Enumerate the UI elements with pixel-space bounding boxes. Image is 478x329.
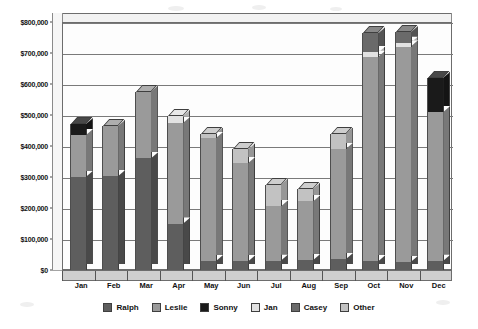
- legend-swatch-icon: [200, 303, 209, 312]
- bar-segment-ralph[interactable]: [395, 262, 412, 270]
- bar-segment-side-face: [443, 72, 450, 106]
- bar-segment-jan[interactable]: [395, 43, 412, 47]
- bar-segment-side-face: [378, 255, 385, 264]
- bar-segment-side-face: [216, 255, 223, 264]
- stacked-bar[interactable]: [395, 22, 412, 270]
- bar-segment-ralph[interactable]: [135, 158, 152, 270]
- bar-segment-side-face: [86, 171, 93, 264]
- bar-segment-side-face: [378, 51, 385, 256]
- bar-segment-leslie[interactable]: [395, 47, 412, 262]
- bar-segment-leslie[interactable]: [265, 206, 282, 260]
- bar-segment-leslie[interactable]: [362, 57, 379, 262]
- legend-item[interactable]: Ralph: [103, 303, 138, 312]
- legend-label: Leslie: [165, 303, 188, 312]
- x-axis-tick: [62, 271, 63, 281]
- bar-segment-casey[interactable]: [362, 33, 379, 52]
- bar-segment-leslie[interactable]: [297, 201, 314, 260]
- bar-segment-other[interactable]: [232, 149, 249, 163]
- bar-segment-side-face: [443, 106, 450, 255]
- x-axis-tick-label: Jun: [237, 281, 250, 290]
- stacked-bar[interactable]: [265, 22, 282, 270]
- legend-item[interactable]: Casey: [291, 303, 328, 312]
- bar-group[interactable]: [200, 22, 217, 270]
- bar-segment-ralph[interactable]: [200, 261, 217, 270]
- bar-segment-ralph[interactable]: [102, 176, 119, 270]
- legend-swatch-icon: [152, 303, 161, 312]
- y-axis-tick-label: $300,000: [20, 174, 48, 181]
- scan-artifact: [252, 5, 266, 10]
- bar-segment-other[interactable]: [297, 189, 314, 201]
- bar-segment-side-face: [183, 117, 190, 218]
- bar-segment-leslie[interactable]: [200, 138, 217, 261]
- bar-segment-casey[interactable]: [395, 32, 412, 43]
- x-axis: JanFebMarAprMayJunJulAugSepOctNovDec: [62, 281, 452, 295]
- stacked-bar[interactable]: [297, 22, 314, 270]
- y-axis-tick-label: $700,000: [20, 50, 48, 57]
- stacked-bar[interactable]: [167, 22, 184, 270]
- bar-group[interactable]: [265, 22, 282, 270]
- bar-segment-leslie[interactable]: [135, 92, 152, 159]
- y-axis-tick-label: $400,000: [20, 143, 48, 150]
- bar-segment-leslie[interactable]: [102, 126, 119, 176]
- bar-segment-jan[interactable]: [362, 52, 379, 56]
- bar-segment-ralph[interactable]: [232, 261, 249, 270]
- x-axis-tick-label: Dec: [432, 281, 446, 290]
- stacked-bar[interactable]: [102, 22, 119, 270]
- bar-segment-ralph[interactable]: [330, 259, 347, 270]
- x-axis-tick-label: Aug: [301, 281, 316, 290]
- stacked-bar[interactable]: [200, 22, 217, 270]
- bar-segment-jan[interactable]: [167, 116, 184, 123]
- bar-group[interactable]: [427, 22, 444, 270]
- legend-label: Jan: [264, 303, 278, 312]
- x-axis-tick-label: May: [204, 281, 219, 290]
- x-axis-tick: [192, 271, 193, 281]
- x-axis-tick: [95, 271, 96, 281]
- bar-group[interactable]: [232, 22, 249, 270]
- bar-group[interactable]: [330, 22, 347, 270]
- bar-segment-sonny[interactable]: [70, 124, 87, 135]
- bar-segment-leslie[interactable]: [232, 163, 249, 261]
- legend-item[interactable]: Sonny: [200, 303, 237, 312]
- bar-group[interactable]: [70, 22, 87, 270]
- bar-segment-side-face: [313, 195, 320, 254]
- bar-segment-ralph[interactable]: [167, 224, 184, 271]
- legend-item[interactable]: Other: [340, 303, 374, 312]
- bar-segment-sonny[interactable]: [427, 78, 444, 112]
- stacked-bar[interactable]: [362, 22, 379, 270]
- bar-segment-other[interactable]: [265, 185, 282, 207]
- bar-group[interactable]: [395, 22, 412, 270]
- stacked-bar[interactable]: [330, 22, 347, 270]
- legend-item[interactable]: Jan: [251, 303, 278, 312]
- bar-group[interactable]: [297, 22, 314, 270]
- bar-segment-ralph[interactable]: [265, 261, 282, 270]
- bar-segment-ralph[interactable]: [427, 261, 444, 270]
- bar-segment-side-face: [281, 200, 288, 254]
- legend-label: Other: [353, 303, 374, 312]
- bar-segment-leslie[interactable]: [427, 112, 444, 261]
- bar-segment-leslie[interactable]: [167, 123, 184, 224]
- bar-group[interactable]: [102, 22, 119, 270]
- bar-group[interactable]: [135, 22, 152, 270]
- x-axis-tick-label: Mar: [140, 281, 153, 290]
- bar-segment-ralph[interactable]: [297, 260, 314, 270]
- bar-segment-leslie[interactable]: [70, 135, 87, 177]
- stacked-bar[interactable]: [135, 22, 152, 270]
- bar-segment-ralph[interactable]: [70, 177, 87, 270]
- plot-top-face: [62, 13, 452, 22]
- bar-segment-ralph[interactable]: [362, 261, 379, 270]
- bar-segment-side-face: [378, 46, 385, 50]
- bar-group[interactable]: [167, 22, 184, 270]
- legend-swatch-icon: [251, 303, 260, 312]
- bar-group[interactable]: [362, 22, 379, 270]
- bar-segment-other[interactable]: [200, 134, 217, 139]
- stacked-bar[interactable]: [70, 22, 87, 270]
- legend-item[interactable]: Leslie: [152, 303, 188, 312]
- legend-swatch-icon: [103, 303, 112, 312]
- bar-segment-side-face: [248, 255, 255, 264]
- bar-segment-side-face: [411, 41, 418, 256]
- stacked-bar[interactable]: [427, 22, 444, 270]
- x-axis-tick: [290, 271, 291, 281]
- bar-segment-other[interactable]: [330, 134, 347, 150]
- stacked-bar[interactable]: [232, 22, 249, 270]
- bar-segment-leslie[interactable]: [330, 149, 347, 259]
